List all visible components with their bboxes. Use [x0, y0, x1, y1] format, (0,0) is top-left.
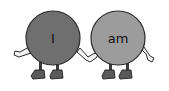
boot-icon [50, 70, 63, 79]
character-am: am [91, 11, 154, 79]
boot-icon [102, 70, 115, 79]
boot-icon [119, 70, 132, 79]
word-label-i: I [51, 31, 55, 46]
boot-icon [31, 70, 45, 79]
word-label-am: am [108, 31, 129, 46]
character-i: I [14, 11, 80, 79]
word-characters-illustration: I am [0, 0, 169, 91]
